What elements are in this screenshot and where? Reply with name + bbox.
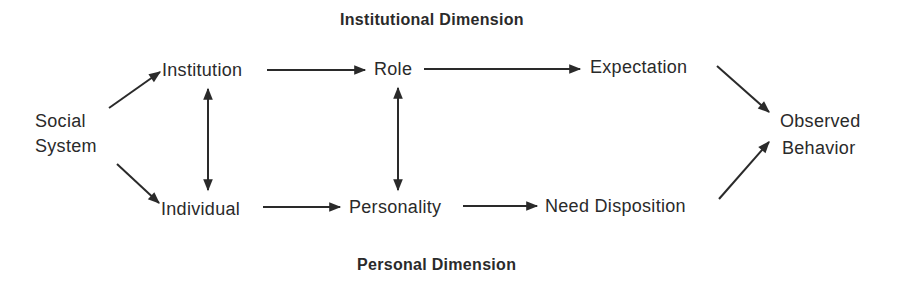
arrow-social-to-institution (109, 72, 160, 108)
arrow-need-to-observed (719, 142, 769, 199)
arrow-social-to-individual (117, 164, 159, 203)
arrow-expectation-to-observed (717, 66, 769, 112)
arrows-layer (0, 0, 899, 283)
